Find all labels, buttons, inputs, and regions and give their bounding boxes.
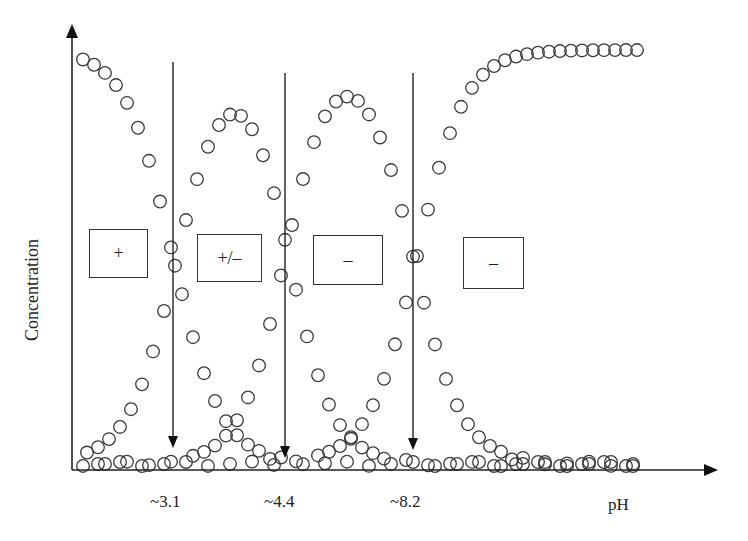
data-point-marker [158, 458, 171, 471]
data-point-marker [440, 373, 453, 386]
data-point-marker [286, 219, 299, 232]
data-point-marker [224, 458, 237, 471]
data-point-marker [290, 455, 303, 468]
data-point-marker [202, 140, 215, 153]
data-point-marker [169, 259, 182, 272]
data-point-marker [532, 456, 545, 469]
species-box-dianion: – [463, 237, 524, 289]
data-point-marker [103, 433, 116, 446]
data-point-marker [396, 205, 409, 218]
data-point-marker [598, 456, 611, 469]
data-point-marker [462, 418, 475, 431]
pka1-arrowhead-icon [168, 436, 178, 448]
data-point-marker [297, 458, 310, 471]
cation-label: + [113, 243, 123, 264]
data-point-marker [246, 123, 259, 136]
species-box-anion: – [313, 235, 383, 285]
data-point-marker [400, 296, 413, 309]
data-point-marker [400, 454, 413, 467]
data-point-marker [301, 330, 314, 343]
data-point-marker [389, 338, 402, 351]
data-point-marker [257, 149, 270, 162]
pka2-arrowhead-icon [280, 446, 290, 458]
data-point-marker [429, 338, 442, 351]
data-point-marker [268, 187, 281, 200]
data-point-marker [466, 82, 479, 95]
y-axis-label: Concentration [22, 239, 43, 341]
pka3-label: ~8.2 [390, 492, 420, 512]
data-point-marker [356, 418, 369, 431]
data-point-marker [367, 399, 380, 412]
data-point-marker [319, 110, 332, 123]
data-point-marker [209, 395, 222, 408]
species-box-zwitterion: +/– [197, 234, 262, 282]
data-point-marker [92, 441, 105, 454]
data-point-marker [352, 95, 365, 108]
x-axis-label: pH [608, 495, 629, 515]
data-point-marker [176, 288, 189, 301]
data-point-marker [158, 305, 171, 318]
data-point-marker [451, 458, 464, 471]
data-point-marker [92, 458, 105, 471]
data-point-marker [385, 164, 398, 177]
data-point-marker [121, 455, 134, 468]
data-point-marker [334, 440, 347, 453]
data-point-marker [422, 203, 435, 216]
data-point-marker [114, 421, 127, 434]
data-point-marker [308, 136, 321, 149]
data-point-marker [473, 456, 486, 469]
data-point-marker [297, 173, 310, 186]
data-point-marker [99, 458, 112, 471]
data-point-marker [319, 457, 332, 470]
data-point-marker [495, 445, 508, 458]
data-point-marker [143, 155, 156, 168]
x-axis-arrowhead-icon [704, 464, 718, 476]
data-point-marker [147, 345, 160, 358]
data-point-marker [132, 121, 145, 134]
data-point-marker [121, 97, 134, 110]
data-point-marker [433, 161, 446, 174]
data-point-marker [334, 419, 347, 432]
data-point-marker [363, 108, 376, 121]
data-point-marker [444, 127, 457, 140]
data-point-marker [455, 100, 468, 113]
data-point-marker [198, 367, 211, 380]
zwitterion-label: +/– [217, 248, 241, 269]
data-point-marker [451, 399, 464, 412]
data-point-marker [473, 431, 486, 444]
data-point-marker [191, 173, 204, 186]
y-axis-arrowhead-icon [66, 24, 78, 38]
data-point-marker [444, 457, 457, 470]
data-point-marker [561, 457, 574, 470]
data-point-marker [165, 241, 178, 254]
data-point-marker [110, 79, 123, 92]
data-point-marker [253, 359, 266, 372]
data-point-marker [418, 296, 431, 309]
data-point-marker [99, 67, 112, 80]
data-point-marker [290, 283, 303, 296]
data-point-marker [125, 403, 138, 416]
data-point-marker [374, 131, 387, 144]
data-point-marker [209, 439, 222, 452]
data-point-marker [114, 456, 127, 469]
data-point-marker [576, 458, 589, 471]
data-point-marker [378, 373, 391, 386]
data-point-marker [246, 455, 259, 468]
pka1-label: ~3.1 [150, 492, 180, 512]
data-point-marker [213, 119, 226, 132]
data-point-marker [187, 331, 200, 344]
data-point-marker [154, 195, 167, 208]
pka2-label: ~4.4 [264, 492, 294, 512]
pka3-arrowhead-icon [408, 438, 418, 450]
dianion-label: – [489, 253, 498, 274]
data-point-marker [466, 456, 479, 469]
data-point-marker [136, 378, 149, 391]
data-point-marker [264, 318, 277, 331]
data-point-marker [88, 58, 101, 71]
data-point-marker [165, 455, 178, 468]
data-point-marker [477, 68, 490, 81]
data-point-marker [242, 391, 255, 404]
data-point-marker [341, 455, 354, 468]
data-point-marker [323, 398, 336, 411]
anion-label: – [344, 250, 353, 271]
